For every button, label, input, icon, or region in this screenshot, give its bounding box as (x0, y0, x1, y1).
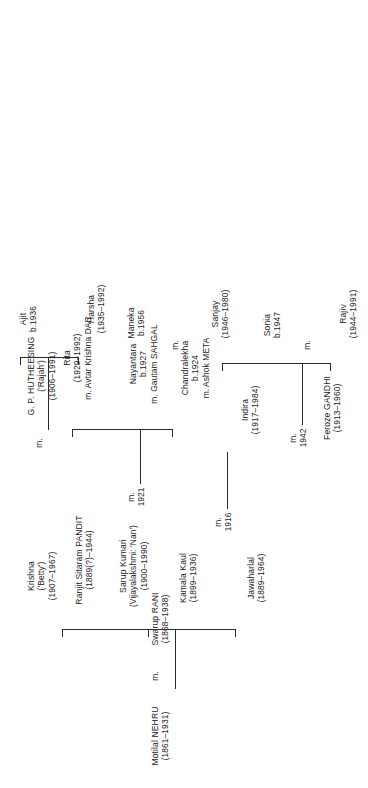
person-sonia-gandhi: Sonia b.1947 (262, 294, 283, 356)
person-chandralekha-pandit: Chandralekha b.1924 m. Ashok META (180, 314, 211, 422)
person-spouse: m. Gautam SAHGAL (149, 306, 159, 422)
person-name: Chandralekha (180, 314, 190, 422)
sibling-tick-chandralekha (172, 429, 173, 437)
person-name: Rita (62, 294, 72, 422)
marriage-motilal-swarup: m. (150, 665, 160, 687)
person-name: Ajit (18, 288, 28, 350)
marriage-year: 1916 (223, 510, 233, 534)
person-jawaharlal-nehru: Jawaharlal (1889–1964) (246, 536, 267, 620)
person-alias: (Vijayalakshmi: 'Nan') (128, 510, 138, 622)
marriage-year: 1921 (136, 485, 146, 509)
person-name: Sarup Kumari (118, 510, 128, 622)
marriage-mark: m. (150, 665, 160, 687)
sibling-tick-rita (72, 429, 73, 437)
person-dates: (1889–1964) (256, 536, 266, 620)
marriage-krishna-huthessing: m. (34, 431, 44, 455)
sibling-tick-jawaharlal (235, 629, 236, 637)
sibling-tick-sarup (148, 629, 149, 637)
person-rajiv-gandhi: Rajiv (1944–1991) (338, 272, 359, 356)
marriage-line-jawaharlal-kamala (227, 452, 228, 509)
person-feroze-gandhi: Feroze GANDHI (1913–1960) (322, 360, 343, 456)
person-indira-gandhi: Indira (1917–1984) (240, 370, 261, 450)
person-dates: (1900–1990) (139, 510, 149, 622)
person-ranjit-sitaram-pandit: Ranjit Sitaram PANDIT (1889(?)–1944) (74, 498, 95, 622)
person-name: Rajiv (338, 272, 348, 356)
person-maneka-gandhi: Maneka b.1956 (126, 290, 147, 356)
person-dates: (1935–1992) (96, 268, 106, 350)
person-dates: (1907–1967) (47, 530, 57, 622)
sibling-tick-sanjay (222, 363, 223, 371)
person-name: Swarup RANI (150, 575, 160, 663)
person-dates: b.1956 (136, 290, 146, 356)
sibling-tick-ajit (20, 357, 21, 365)
marriage-rajiv-sonia: m. (302, 334, 312, 356)
person-dates: (1946–1980) (220, 272, 230, 356)
marriage-line-indira-feroze (302, 364, 303, 425)
person-dates: b.1947 (272, 294, 282, 356)
marriage-jawaharlal-kamala: m. 1916 (213, 510, 234, 534)
person-harsha-hutheesing: Harsha (1935–1992) (86, 268, 107, 350)
person-name: Jawaharlal (246, 536, 256, 620)
marriage-sarup-ranjit: m. 1921 (126, 485, 147, 509)
person-name: Krishna (26, 530, 36, 622)
marriage-mark: m. (170, 334, 180, 356)
person-dates: (1861–1931) (160, 690, 170, 782)
person-dates: b.1936 (28, 288, 38, 350)
marriage-line-sarup-ranjit (140, 430, 141, 484)
person-name: Harsha (86, 268, 96, 350)
sibling-tick-krishna (62, 629, 63, 637)
person-dates: b.1924 (190, 314, 200, 422)
sibling-bus-indira-children (222, 363, 330, 364)
sibling-tick-nayantara (140, 429, 141, 437)
person-name: Motilal NEHRU (150, 690, 160, 782)
person-dates: (1917–1984) (250, 370, 260, 450)
person-dates: (1868–1938) (160, 575, 170, 663)
person-name: Feroze GANDHI (322, 360, 332, 456)
marriage-indira-feroze: m. 1942 (288, 426, 309, 450)
person-sanjay-gandhi: Sanjay (1946–1980) (210, 272, 231, 356)
marriage-sanjay-maneka: m. (170, 334, 180, 356)
person-kamala-kaul: Kamala Kaul (1899–1936) (178, 536, 199, 620)
person-krishna-hutheesing: Krishna ('Betty') (1907–1967) (26, 530, 57, 622)
marriage-line-g1 (175, 629, 176, 689)
person-name: Ranjit Sitaram PANDIT (74, 498, 84, 622)
marriage-mark: m. (126, 485, 136, 509)
person-name: Kamala Kaul (178, 536, 188, 620)
person-name: Indira (240, 370, 250, 450)
person-dates: (1889(?)–1944) (84, 498, 94, 622)
marriage-year: 1942 (298, 426, 308, 450)
family-tree-canvas: Motilal NEHRU (1861–1931) m. Swarup RANI… (0, 0, 368, 788)
sibling-tick-rajiv (330, 363, 331, 371)
person-name: Sonia (262, 294, 272, 356)
person-dates: (1944–1991) (348, 272, 358, 356)
person-sarup-kumari-pandit: Sarup Kumari (Vijayalakshmi: 'Nan') (190… (118, 510, 149, 622)
person-swarup-rani: Swarup RANI (1868–1938) (150, 575, 171, 663)
person-ajit-hutheesing: Ajit b.1936 (18, 288, 39, 350)
marriage-mark: m. (302, 334, 312, 356)
person-motilal-nehru: Motilal NEHRU (1861–1931) (150, 690, 171, 782)
marriage-mark: m. (34, 431, 44, 455)
person-dates: (1899–1936) (188, 536, 198, 620)
sibling-tick-harsha (78, 357, 79, 365)
person-dates: (1913–1960) (332, 360, 342, 456)
marriage-mark: m. (288, 426, 298, 450)
marriage-line-krishna-huthessing (48, 358, 49, 430)
person-alias: ('Betty') (36, 530, 46, 622)
person-name: Sanjay (210, 272, 220, 356)
sibling-bus-hutheesing-children (20, 357, 78, 358)
marriage-mark: m. (213, 510, 223, 534)
sibling-bus-pandit-children (72, 429, 172, 430)
person-name: Maneka (126, 290, 136, 356)
